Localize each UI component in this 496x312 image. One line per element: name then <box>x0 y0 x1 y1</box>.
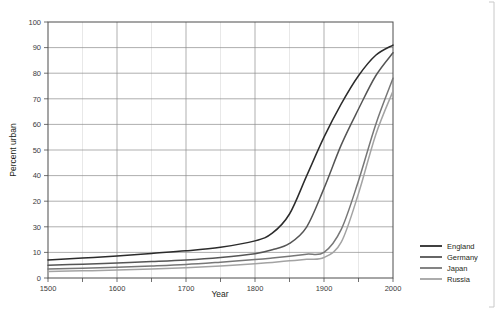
y-tick-label: 20 <box>33 197 41 206</box>
chart-legend: EnglandGermanyJapanRussia <box>420 242 478 284</box>
urbanization-line-chart: 150016001700180019002000 010302040506070… <box>0 0 496 312</box>
x-tick-label: 1900 <box>316 284 333 293</box>
legend-label-germany: Germany <box>447 253 478 262</box>
y-tick-label: 60 <box>33 120 41 129</box>
y-tick-label: 100 <box>28 18 41 27</box>
x-tick-label: 1800 <box>247 284 264 293</box>
y-tick-label: 10 <box>33 248 41 257</box>
legend-label-japan: Japan <box>447 264 467 273</box>
x-tick-label: 2000 <box>385 284 402 293</box>
y-tick-label: 30 <box>33 223 41 232</box>
x-tick-label: 1500 <box>40 284 57 293</box>
legend-label-russia: Russia <box>447 275 471 284</box>
y-tick-label: 80 <box>33 69 41 78</box>
y-tick-label: 40 <box>33 171 41 180</box>
x-axis-title: Year <box>211 289 228 299</box>
page-edge-line <box>489 2 494 307</box>
y-tick-label: 0 <box>37 274 41 283</box>
x-tick-label: 1700 <box>178 284 195 293</box>
x-tick-label: 1600 <box>109 284 126 293</box>
y-tick-label: 50 <box>33 146 41 155</box>
y-tick-label: 70 <box>33 95 41 104</box>
y-tick-label: 90 <box>33 43 41 52</box>
y-axis-tick-labels: 0103020405060708090100 <box>28 18 41 283</box>
legend-label-england: England <box>447 242 475 251</box>
y-axis-title: Percent urban <box>8 123 18 177</box>
